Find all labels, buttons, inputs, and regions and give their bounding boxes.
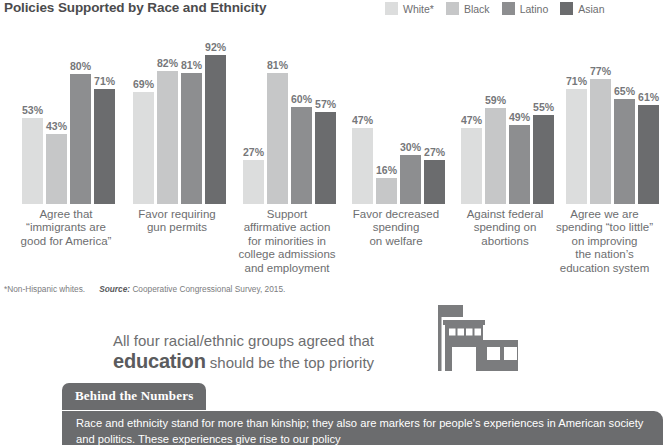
bar-item[interactable]: 82%: [157, 22, 178, 204]
bar-value-label: 71%: [94, 76, 115, 87]
x-axis-labels: Agree that“immigrants aregood for Americ…: [0, 208, 663, 280]
bar-item[interactable]: 65%: [614, 22, 635, 204]
bar-item[interactable]: 16%: [376, 22, 397, 204]
callout-emphasis-education: education: [113, 350, 206, 372]
bar-item[interactable]: 77%: [590, 22, 611, 204]
bar-value-label: 27%: [243, 147, 264, 158]
bar-rect: [376, 178, 397, 204]
x-axis-label: Agree that“immigrants aregood for Americ…: [2, 208, 130, 248]
legend-item-white[interactable]: White*: [385, 2, 434, 15]
bar-rect: [638, 105, 659, 204]
x-axis-label: Agree we arespending “too little”on impr…: [546, 208, 663, 275]
bar-item[interactable]: 69%: [133, 22, 154, 204]
bar-value-label: 81%: [267, 60, 288, 71]
bar-item[interactable]: 71%: [566, 22, 587, 204]
legend-item-label: White*: [403, 3, 434, 15]
bar-rect: [22, 118, 43, 204]
school-building-icon: [428, 302, 520, 374]
legend-swatch-icon: [385, 2, 398, 15]
bar-value-label: 43%: [46, 121, 67, 132]
bar-rect: [205, 55, 226, 204]
bar-item[interactable]: 92%: [205, 22, 226, 204]
bar-value-label: 57%: [315, 99, 336, 110]
bar-value-label: 16%: [376, 165, 397, 176]
bar-item[interactable]: 61%: [638, 22, 659, 204]
bar-rect: [70, 74, 91, 204]
bar-item[interactable]: 71%: [94, 22, 115, 204]
behind-the-numbers-panel: Behind the Numbers Race and ethnicity st…: [62, 383, 663, 445]
bar-rect: [352, 128, 373, 204]
bar-rect: [157, 71, 178, 204]
bar-rect: [94, 89, 115, 204]
bar-value-label: 80%: [70, 61, 91, 72]
bar-rect: [133, 92, 154, 204]
bar-value-label: 81%: [181, 60, 202, 71]
chart-header: Policies Supported by Race and Ethnicity…: [0, 0, 663, 22]
bar-item[interactable]: 53%: [22, 22, 43, 204]
bar-item[interactable]: 49%: [509, 22, 530, 204]
bar-value-label: 71%: [566, 76, 587, 87]
bar-value-label: 49%: [509, 112, 530, 123]
bar-item[interactable]: 27%: [243, 22, 264, 204]
legend-swatch-icon: [446, 2, 459, 15]
bar-value-label: 59%: [485, 95, 506, 106]
legend-item-label: Latino: [520, 3, 549, 15]
bar-rect: [243, 160, 264, 204]
legend-swatch-icon: [560, 2, 573, 15]
bar-rect: [614, 99, 635, 204]
legend-swatch-icon: [502, 2, 515, 15]
bar-value-label: 82%: [157, 58, 178, 69]
bar-item[interactable]: 30%: [400, 22, 421, 204]
bar-item[interactable]: 81%: [267, 22, 288, 204]
bar-value-label: 69%: [133, 79, 154, 90]
bar-rect: [533, 115, 554, 204]
bar-rect: [181, 73, 202, 204]
bar-item[interactable]: 59%: [485, 22, 506, 204]
education-callout: All four racial/ethnic groups agreed tha…: [113, 330, 433, 373]
page-title: Policies Supported by Race and Ethnicity: [4, 0, 266, 15]
chart-legend: White*BlackLatinoAsian: [385, 2, 617, 15]
bar-rect: [291, 107, 312, 204]
bar-item[interactable]: 27%: [424, 22, 445, 204]
bar-value-label: 47%: [352, 115, 373, 126]
bar-item[interactable]: 55%: [533, 22, 554, 204]
legend-item-asian[interactable]: Asian: [560, 2, 604, 15]
bar-rect: [424, 160, 445, 204]
bar-value-label: 53%: [22, 105, 43, 116]
bar-item[interactable]: 47%: [352, 22, 373, 204]
bar-rect: [509, 125, 530, 204]
bar-rect: [46, 134, 67, 204]
legend-item-black[interactable]: Black: [446, 2, 490, 15]
bar-value-label: 27%: [424, 147, 445, 158]
legend-item-latino[interactable]: Latino: [502, 2, 549, 15]
bar-value-label: 77%: [590, 66, 611, 77]
bar-item[interactable]: 80%: [70, 22, 91, 204]
behind-the-numbers-tab: Behind the Numbers: [62, 383, 206, 410]
bar-rect: [590, 79, 611, 204]
bar-item[interactable]: 47%: [461, 22, 482, 204]
chart-footnote: *Non-Hispanic whites.Source: Cooperative…: [4, 284, 285, 294]
bar-rect: [400, 155, 421, 204]
bar-value-label: 55%: [533, 102, 554, 113]
footnote-note: *Non-Hispanic whites.: [4, 284, 85, 294]
bar-rect: [485, 108, 506, 204]
bar-value-label: 47%: [461, 115, 482, 126]
behind-the-numbers-body: Race and ethnicity stand for more than k…: [62, 411, 663, 445]
bar-value-label: 60%: [291, 94, 312, 105]
bar-value-label: 65%: [614, 86, 635, 97]
bar-value-label: 92%: [205, 42, 226, 53]
footnote-source-label: Source:: [99, 284, 130, 294]
bar-item[interactable]: 57%: [315, 22, 336, 204]
bar-item[interactable]: 60%: [291, 22, 312, 204]
bar-item[interactable]: 81%: [181, 22, 202, 204]
bar-item[interactable]: 43%: [46, 22, 67, 204]
bar-rect: [461, 128, 482, 204]
bar-rect: [315, 112, 336, 204]
bar-value-label: 30%: [400, 142, 421, 153]
bar-chart-plot-area: 53%43%80%71%69%82%81%92%27%81%60%57%47%1…: [0, 22, 663, 204]
footnote-source-text: Cooperative Congressional Survey, 2015.: [132, 284, 285, 294]
legend-item-label: Asian: [578, 3, 604, 15]
bar-rect: [267, 73, 288, 204]
legend-item-label: Black: [464, 3, 490, 15]
callout-line-1: All four racial/ethnic groups agreed tha…: [113, 332, 374, 349]
